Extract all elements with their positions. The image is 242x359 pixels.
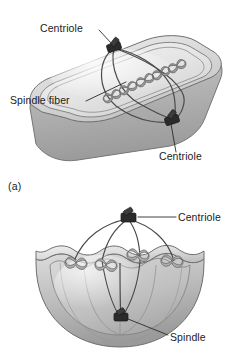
- panel-a-illustration: Centriole Spindle fiber Centriole: [0, 0, 242, 205]
- label-centriole-bottom-a: Centriole: [159, 150, 202, 162]
- label-spindle-b: Spindle: [170, 331, 206, 343]
- panel-a: Centriole Spindle fiber Centriole (a): [0, 0, 242, 205]
- label-centriole-top-b: Centriole: [178, 211, 221, 223]
- leader-centriole-top-a: [99, 30, 112, 44]
- panel-b-illustration: Centriole Spindle: [0, 185, 242, 359]
- cell-highlight: [54, 255, 146, 315]
- figure-root: Centriole Spindle fiber Centriole (a): [0, 0, 242, 359]
- label-spindle-fiber-a: Spindle fiber: [10, 94, 70, 106]
- label-centriole-top-a: Centriole: [40, 22, 83, 34]
- centriole-top-b: [121, 207, 136, 222]
- panel-b: Centriole Spindle (b): [0, 185, 242, 359]
